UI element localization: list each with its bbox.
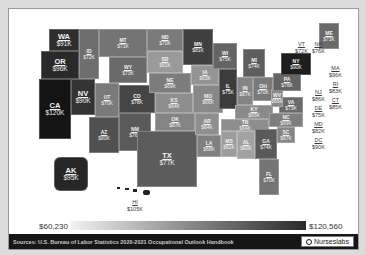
state-sc: SC $67K xyxy=(277,127,295,143)
state-in: IN $67K xyxy=(237,77,253,105)
state-la: LA $68K xyxy=(197,135,221,157)
state-ok: OK $67K xyxy=(155,113,195,131)
state-mi: MI $74K xyxy=(243,49,265,77)
state-ny: NY $90K xyxy=(281,53,311,75)
state-mt: MT $71K xyxy=(99,29,147,57)
state-pa: PA $76K xyxy=(273,73,301,91)
legend-gradient-bar xyxy=(71,221,306,230)
state-ky: KY $65K xyxy=(235,105,273,119)
legend-min-label: $60,230 xyxy=(39,222,68,231)
state-id: ID $72K xyxy=(79,29,99,79)
nurseslabs-logo-icon xyxy=(306,239,312,245)
state-ms: MS $61K xyxy=(221,131,237,157)
brand-name: Nurseslabs xyxy=(314,238,349,245)
state-nv: NV $90K xyxy=(71,79,95,115)
source-text: Sources: U.S. Bureau of Labor Statistics… xyxy=(13,239,234,245)
state-az: AZ $80K xyxy=(89,117,119,153)
map-card: WA $91K OR $96K CA $120K NV $90K ID $72K… xyxy=(8,8,359,250)
state-mn: MN $81K xyxy=(183,29,213,65)
state-nd: ND $70K xyxy=(147,29,183,51)
state-ks: KS $64K xyxy=(155,93,193,113)
label-vt: VT $72K xyxy=(295,41,308,54)
state-ca: CA $120K xyxy=(39,79,71,139)
label-md: MD $82K xyxy=(312,121,325,134)
state-ar: AR $64K xyxy=(195,113,219,135)
label-ct: CT $85K xyxy=(329,97,342,110)
state-tx: TX $77K xyxy=(137,131,197,187)
label-nh: NH $76K xyxy=(312,41,325,54)
label-nj: NJ $86K xyxy=(312,89,325,102)
state-oh: OH $70K xyxy=(253,77,273,101)
state-al: AL $60K xyxy=(237,131,255,159)
state-ut: UT $70K xyxy=(95,83,119,117)
label-de: DE $75K xyxy=(312,105,325,118)
state-fl: FL $70K xyxy=(259,159,279,195)
footer-bar: Sources: U.S. Bureau of Labor Statistics… xyxy=(9,234,358,249)
state-wy: WY $73K xyxy=(109,57,147,83)
state-wv: WV $66K xyxy=(271,89,283,107)
us-choropleth-map: WA $91K OR $96K CA $120K NV $90K ID $72K… xyxy=(9,9,358,219)
label-hi: HI $105K xyxy=(127,199,143,212)
state-ak: AK $95K xyxy=(54,157,88,191)
state-nc: NC $69K xyxy=(269,113,303,127)
label-ri: RI $83K xyxy=(329,81,342,94)
legend-max-label: $120,560 xyxy=(309,222,342,231)
state-or: OR $96K xyxy=(41,51,79,79)
state-ga: GA $74K xyxy=(255,129,277,159)
state-wa: WA $91K xyxy=(49,29,79,51)
state-il: IL $75K xyxy=(219,69,237,109)
label-ma: MA $96K xyxy=(329,65,342,78)
state-sd: SD $61K xyxy=(147,51,183,73)
brand-logo: Nurseslabs xyxy=(301,236,354,247)
state-ne: NE $69K xyxy=(149,73,191,93)
label-dc: DC $90K xyxy=(312,137,325,150)
state-wi: WI $75K xyxy=(213,43,237,69)
hawaii-islands xyxy=(117,187,157,193)
